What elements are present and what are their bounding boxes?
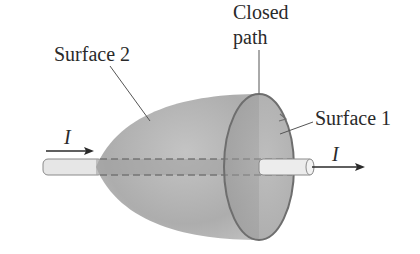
wire-left — [43, 159, 103, 175]
closed-path-label-line1: Closed — [233, 2, 289, 22]
wire-right — [259, 159, 313, 175]
current-out-label: I — [332, 144, 339, 164]
current-in-label: I — [64, 127, 71, 147]
diagram-canvas: Closed path Surface 2 Surface 1 I I — [0, 0, 420, 254]
surface-1-label: Surface 1 — [315, 108, 391, 128]
surface-2-leader-line — [110, 66, 150, 121]
closed-path-label-line2: path — [233, 27, 267, 47]
surface-2-label: Surface 2 — [54, 44, 130, 64]
